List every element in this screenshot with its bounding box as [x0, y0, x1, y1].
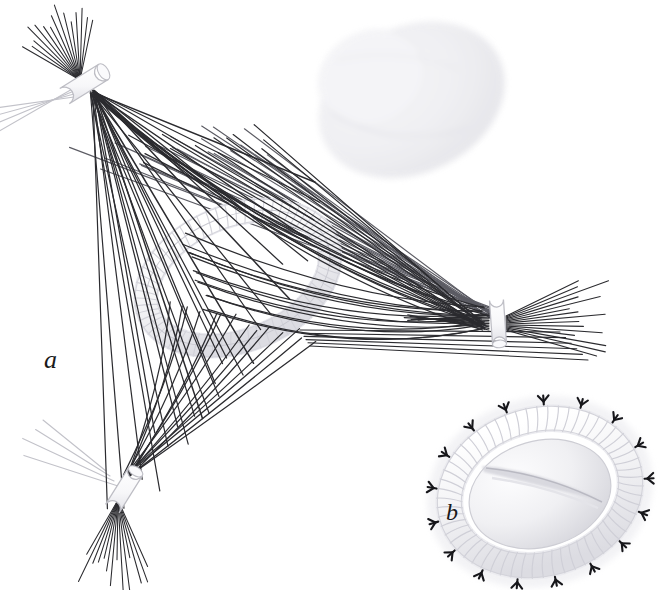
panel-label-a: a — [44, 347, 57, 373]
pole-right — [489, 300, 506, 349]
spindle-illustration-canvas — [0, 0, 665, 590]
figure-root: a b — [0, 0, 665, 590]
panel-label-b: b — [446, 500, 458, 524]
centriole-cap — [492, 340, 507, 349]
centriole-barrel — [489, 300, 506, 345]
